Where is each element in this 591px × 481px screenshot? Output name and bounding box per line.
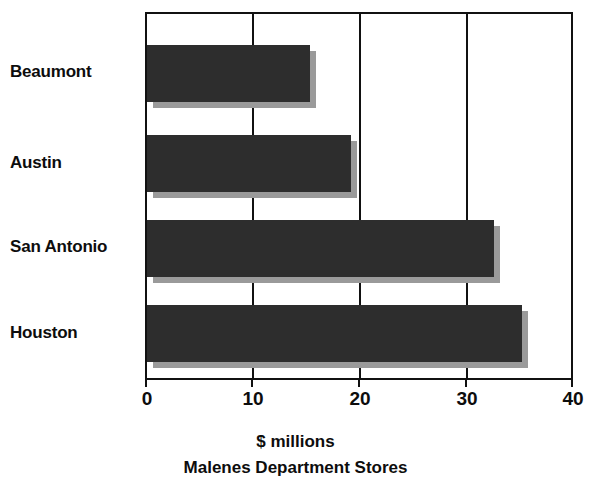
tick-label-0: 0 xyxy=(142,389,153,408)
bar-beaumont xyxy=(147,45,310,102)
bar-san-antonio xyxy=(147,220,494,277)
x-axis-title: $ millions xyxy=(0,432,591,452)
category-label-beaumont: Beaumont xyxy=(10,63,140,80)
tick-mark-0 xyxy=(145,380,147,387)
tick-label-40: 40 xyxy=(562,389,583,408)
category-label-austin: Austin xyxy=(10,154,140,171)
bar-houston xyxy=(147,305,522,362)
tick-label-10: 10 xyxy=(242,389,263,408)
category-label-san-antonio: San Antonio xyxy=(10,238,140,255)
tick-mark-30 xyxy=(465,380,467,387)
bar-austin xyxy=(147,135,351,192)
tick-mark-40 xyxy=(571,380,573,387)
bar-chart: Beaumont Austin San Antonio Houston 0 10… xyxy=(0,0,591,481)
tick-mark-10 xyxy=(251,380,253,387)
category-label-houston: Houston xyxy=(10,324,140,341)
plot-area xyxy=(145,12,573,380)
tick-label-20: 20 xyxy=(349,389,370,408)
chart-title: Malenes Department Stores xyxy=(0,458,591,478)
tick-label-30: 30 xyxy=(456,389,477,408)
tick-mark-20 xyxy=(358,380,360,387)
